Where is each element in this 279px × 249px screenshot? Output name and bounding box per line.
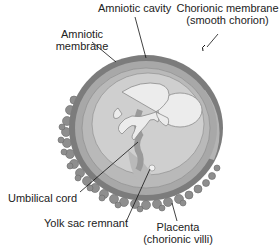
label-placenta: Placenta (chorionic villi): [142, 221, 214, 245]
label-chorionic-membrane: Chorionic membrane (smooth chorion): [176, 2, 279, 26]
label-chorionic-membrane-line1: Chorionic membrane: [176, 2, 279, 14]
label-umbilical-cord: Umbilical cord: [8, 192, 77, 204]
label-amniotic-membrane-line1: Amniotic: [52, 28, 112, 40]
fetal-membranes-illustration: [0, 0, 279, 249]
label-amniotic-cavity: Amniotic cavity: [98, 2, 171, 14]
label-placenta-line1: Placenta: [142, 221, 214, 233]
label-yolk-sac-remnant: Yolk sac remnant: [44, 217, 128, 229]
label-amniotic-membrane: Amniotic membrane: [52, 28, 112, 52]
label-chorionic-membrane-line2: (smooth chorion): [176, 14, 279, 26]
label-amniotic-membrane-line2: membrane: [52, 40, 112, 52]
label-placenta-line2: (chorionic villi): [142, 233, 214, 245]
